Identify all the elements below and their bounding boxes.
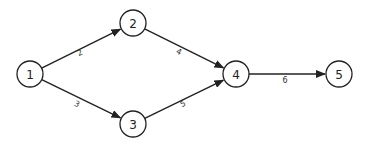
- node-label: 1: [26, 68, 34, 82]
- edge-line: [42, 29, 121, 68]
- edge-4-5: 6: [249, 74, 325, 85]
- node-1: 1: [17, 61, 43, 87]
- edge-2-4: 4: [145, 29, 224, 68]
- edge-1-3: 3: [42, 80, 121, 118]
- edge-weight-label: 3: [73, 99, 82, 109]
- edge-3-4: 5: [145, 80, 224, 118]
- edge-weight-label: 5: [179, 99, 188, 109]
- node-2: 2: [120, 10, 146, 36]
- node-5: 5: [326, 61, 352, 87]
- edge-line: [42, 80, 121, 118]
- edge-line: [145, 80, 224, 118]
- edge-line: [145, 29, 224, 68]
- network-diagram: 23456 12345: [0, 0, 366, 150]
- node-label: 4: [232, 68, 240, 82]
- node-4: 4: [223, 61, 249, 87]
- node-label: 2: [129, 17, 137, 31]
- edge-1-2: 2: [42, 29, 121, 68]
- edge-weight-label: 6: [282, 76, 287, 85]
- node-label: 5: [335, 68, 343, 82]
- edge-weight-label: 2: [76, 48, 85, 58]
- edges-layer: 23456: [42, 29, 325, 119]
- edge-weight-label: 4: [175, 47, 184, 57]
- node-3: 3: [120, 111, 146, 137]
- node-label: 3: [129, 118, 137, 132]
